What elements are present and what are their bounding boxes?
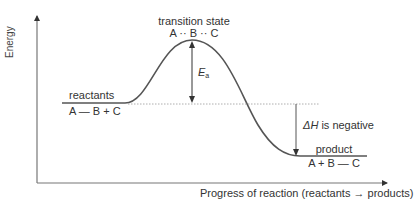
y-axis-label: Energy (4, 26, 15, 58)
transition-state-species: A ·· B ·· C (170, 28, 219, 39)
activation-energy-arrowhead-bottom (189, 96, 195, 103)
activation-energy-label: Ea (198, 67, 209, 79)
reactants-label: reactants (69, 90, 114, 101)
transition-state-label: transition state (158, 16, 230, 27)
enthalpy-change-symbol: ΔH (303, 119, 318, 131)
enthalpy-change-text: is negative (318, 119, 374, 131)
activation-energy-subscript: a (205, 72, 209, 79)
enthalpy-change-label: ΔH is negative (303, 120, 374, 131)
activation-energy-arrowhead-top (189, 41, 195, 48)
product-label: product (316, 144, 353, 155)
reactants-species: A — B + C (69, 106, 121, 117)
product-species: A + B — C (308, 158, 360, 169)
x-axis-label: Progress of reaction (reactants → produc… (200, 188, 413, 199)
